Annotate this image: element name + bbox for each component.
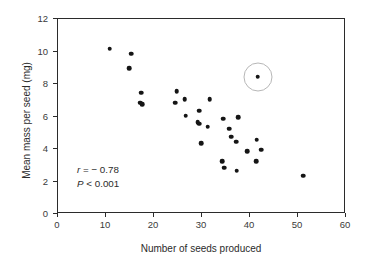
y-tick-mark <box>53 148 57 149</box>
x-tick-mark <box>345 213 346 217</box>
p-value: < 0.001 <box>84 178 120 189</box>
pvalue-line: P < 0.001 <box>77 177 119 191</box>
x-tick-label: 40 <box>234 219 264 230</box>
y-tick-mark <box>53 116 57 117</box>
y-tick-mark <box>53 181 57 182</box>
y-tick-label: 12 <box>14 13 48 24</box>
x-tick-label: 10 <box>90 219 120 230</box>
x-tick-mark <box>57 213 58 217</box>
x-tick-label: 0 <box>42 219 72 230</box>
x-axis-title: Number of seeds produced <box>57 243 345 254</box>
correlation-line: r = − 0.78 <box>77 163 119 177</box>
x-tick-label: 20 <box>138 219 168 230</box>
x-tick-mark <box>249 213 250 217</box>
statistics-annotation: r = − 0.78 P < 0.001 <box>77 163 119 190</box>
y-axis-title: Mean mass per seed (mg) <box>21 31 32 211</box>
y-tick-mark <box>53 18 57 19</box>
scatter-plot-figure: 0 2 4 6 8 10 12 0 10 20 30 40 50 60 r = <box>0 0 367 266</box>
x-tick-label: 50 <box>282 219 312 230</box>
y-tick-mark <box>53 51 57 52</box>
x-tick-label: 30 <box>186 219 216 230</box>
x-tick-label: 60 <box>330 219 360 230</box>
x-tick-mark <box>201 213 202 217</box>
y-tick-mark <box>53 83 57 84</box>
x-tick-mark <box>105 213 106 217</box>
x-tick-mark <box>297 213 298 217</box>
x-tick-mark <box>153 213 154 217</box>
r-value: = − 0.78 <box>80 164 119 175</box>
